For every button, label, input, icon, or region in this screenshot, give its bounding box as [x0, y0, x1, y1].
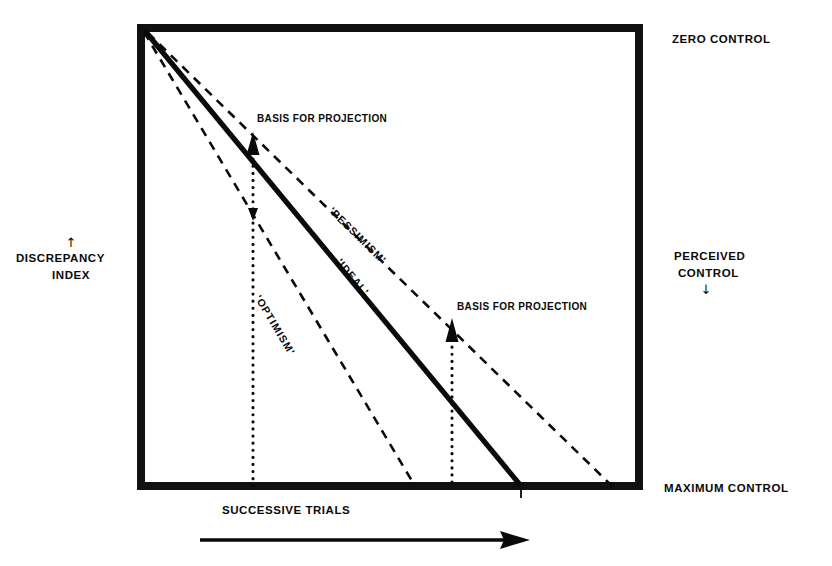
up-arrowhead-upper: [247, 132, 260, 155]
series-ideal: [145, 31, 521, 498]
label-maximum-control: MAXIMUM CONTROL: [664, 481, 789, 495]
frame-top-edge: [137, 24, 643, 32]
label-basis-for-projection-lower: BASIS FOR PROJECTION: [457, 300, 587, 314]
label-discrepancy-line2: INDEX: [16, 268, 126, 282]
label-basis-for-projection-upper: BASIS FOR PROJECTION: [257, 112, 387, 126]
frame-bottom-edge: [137, 482, 643, 490]
successive-trials-direction-arrow: [200, 531, 530, 549]
discrepancy-up-arrow-icon: ↑: [62, 236, 80, 249]
label-perceived-control-line2: CONTROL: [678, 266, 739, 280]
annotation-basis-upper: [247, 132, 260, 486]
figure-container: ZERO CONTROL PERCEIVED CONTROL ↓ MAXIMUM…: [0, 0, 832, 566]
down-arrowhead-upper: [248, 208, 258, 221]
label-successive-trials: SUCCESSIVE TRIALS: [222, 503, 350, 517]
up-arrowhead-lower: [446, 318, 459, 342]
label-discrepancy-line1: DISCREPANCY: [16, 251, 105, 265]
arrowhead-right: [500, 531, 530, 549]
plot-frame: [137, 24, 643, 490]
frame-right-edge: [635, 24, 643, 490]
label-zero-control: ZERO CONTROL: [672, 32, 771, 46]
frame-left-edge: [137, 24, 145, 490]
label-perceived-control-line1: PERCEIVED: [674, 249, 745, 263]
perceived-control-down-arrow-icon: ↓: [697, 283, 715, 296]
